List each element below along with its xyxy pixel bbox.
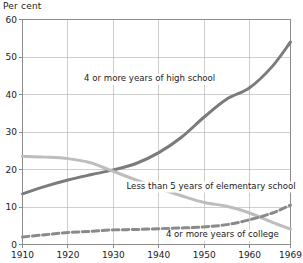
y-tick-label: 0 — [11, 240, 17, 250]
x-tick-label: 1920 — [56, 250, 79, 260]
series-annotation-label: Less than 5 years of elementary school — [126, 181, 295, 191]
y-axis-ticks: 0102030405060 — [6, 15, 23, 250]
x-tick-label: 1940 — [147, 250, 170, 260]
series-annotation-label: 4 or more years of college — [166, 229, 279, 239]
y-tick-label: 60 — [6, 15, 18, 25]
x-tick-label: 1960 — [238, 250, 261, 260]
y-tick-label: 30 — [6, 127, 18, 137]
series-line — [23, 42, 291, 194]
line-chart-plot: 0102030405060 19101920193019401950196019… — [0, 0, 303, 263]
y-tick-label: 40 — [6, 90, 18, 100]
y-tick-label: 20 — [6, 165, 18, 175]
series-annotation-label: 4 or more years of high school — [84, 73, 215, 83]
gridlines-group — [23, 20, 291, 245]
data-series-group — [23, 42, 291, 237]
x-tick-label: 1950 — [193, 250, 216, 260]
x-tick-label: 1910 — [11, 250, 34, 260]
x-axis-ticks: 1910192019301940195019601969 — [11, 245, 302, 261]
y-tick-label: 10 — [6, 202, 18, 212]
x-tick-label: 1969 — [279, 250, 302, 260]
x-tick-label: 1930 — [102, 250, 125, 260]
y-tick-label: 50 — [6, 52, 18, 62]
chart-container: Per cent 0102030405060 19101920193019401… — [0, 0, 303, 263]
series-line — [23, 156, 291, 229]
